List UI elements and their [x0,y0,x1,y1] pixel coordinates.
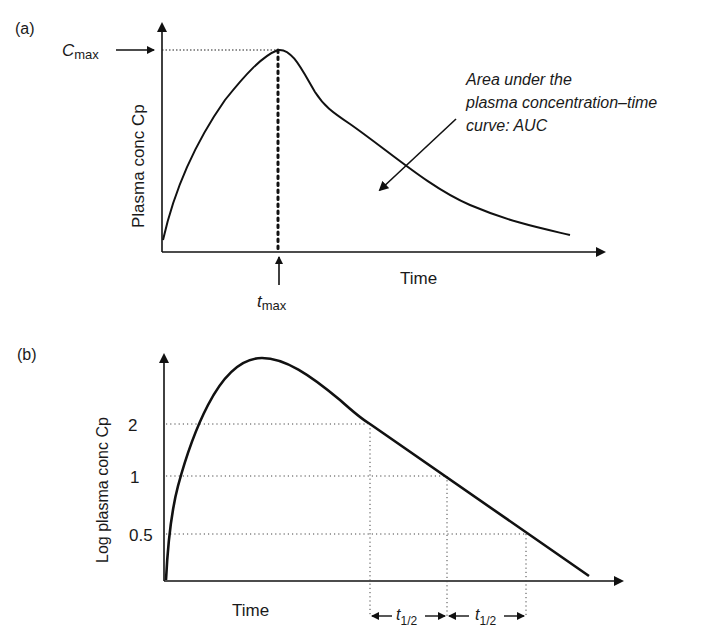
x-axis-label: Time [400,269,437,288]
tick-label-1: 1 [130,468,139,487]
svg-text:t1/2: t1/2 [475,606,496,628]
svg-text:t1/2: t1/2 [396,606,417,628]
pharmacokinetics-figure: (a) Plasma conc Cp Cmax tmax Time Area u… [0,0,722,639]
half-life-1: t1/2 [372,606,445,628]
panel-b: (b) Log plasma conc Cp 2 1 0.5 Time t1 [17,346,622,628]
cmax-label: Cmax [62,41,99,62]
level-guides [166,424,526,534]
half-life-2: t1/2 [449,606,524,628]
tick-label-0-5: 0.5 [129,526,153,545]
y-axis-label: Log plasma conc Cp [94,417,111,563]
panel-a: (a) Plasma conc Cp Cmax tmax Time Area u… [15,20,657,313]
panel-a-label: (a) [15,20,35,37]
y-axis-label: Plasma conc Cp [129,104,148,228]
panel-b-label: (b) [17,346,37,363]
x-axis-label: Time [232,601,269,620]
auc-text-line-2: plasma concentration–time [465,94,657,111]
half-life-guides [370,424,526,616]
auc-text-line-1: Area under the [465,71,572,88]
tick-label-2: 2 [128,416,137,435]
auc-text-line-3: curve: AUC [466,117,548,134]
tmax-label: tmax [257,292,287,313]
